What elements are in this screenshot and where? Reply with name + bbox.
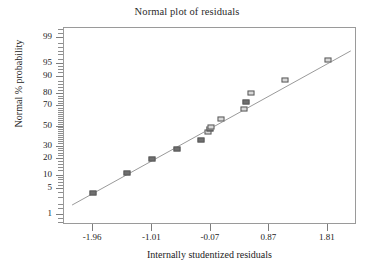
x-tick-label: -0.07	[200, 232, 219, 242]
y-tick-mark	[56, 188, 63, 189]
data-point	[90, 191, 97, 196]
y-tick-mark	[56, 175, 63, 176]
data-point	[173, 146, 180, 151]
y-tick-mark	[56, 158, 63, 159]
x-tick-label: 0.87	[260, 232, 276, 242]
x-tick-label: 1.81	[319, 232, 335, 242]
y-tick-label: 99	[0, 31, 52, 41]
x-tick-mark	[327, 224, 328, 231]
y-tick-label: 95	[0, 57, 52, 67]
data-point	[198, 138, 205, 143]
x-axis-label: Internally studentized residuals	[63, 249, 356, 260]
y-tick-mark	[56, 126, 63, 127]
y-tick-label: 90	[0, 70, 52, 80]
y-tick-mark	[56, 146, 63, 147]
y-tick-label: 1	[0, 208, 52, 218]
data-point	[281, 77, 288, 82]
y-tick-label: 80	[0, 87, 52, 97]
y-tick-mark	[56, 105, 63, 106]
y-tick-mark	[56, 63, 63, 64]
x-tick-mark	[151, 224, 152, 231]
y-tick-label: 50	[0, 120, 52, 130]
y-tick-mark	[56, 93, 63, 94]
chart-root: Normal plot of residuals Normal % probab…	[0, 0, 374, 272]
x-tick-label: -1.96	[83, 232, 102, 242]
x-tick-mark	[92, 224, 93, 231]
x-tick-mark	[268, 224, 269, 231]
data-point	[324, 57, 331, 62]
data-point	[243, 99, 250, 104]
plot-inner	[64, 28, 355, 223]
data-point	[207, 124, 214, 129]
y-tick-mark	[56, 76, 63, 77]
y-tick-mark	[56, 37, 63, 38]
data-point	[123, 171, 130, 176]
data-point	[240, 106, 247, 111]
plot-area	[63, 27, 356, 224]
data-point	[248, 90, 255, 95]
data-point	[218, 116, 225, 121]
data-point	[149, 156, 156, 161]
x-tick-label: -1.01	[142, 232, 161, 242]
y-tick-mark	[56, 214, 63, 215]
y-tick-label: 30	[0, 140, 52, 150]
y-tick-label: 20	[0, 152, 52, 162]
y-tick-label: 70	[0, 99, 52, 109]
y-tick-label: 10	[0, 169, 52, 179]
y-tick-label: 5	[0, 182, 52, 192]
chart-title: Normal plot of residuals	[0, 6, 374, 17]
x-tick-mark	[210, 224, 211, 231]
